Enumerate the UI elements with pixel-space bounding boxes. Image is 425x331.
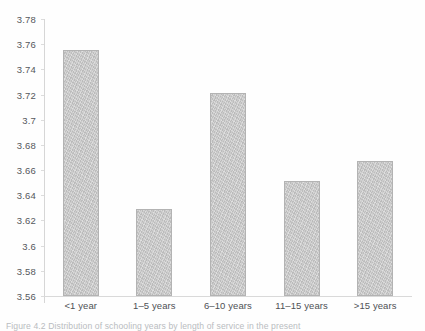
bar — [210, 93, 246, 296]
bar — [63, 50, 99, 296]
y-tick-label: 3.68 — [17, 139, 36, 150]
x-category-label: 6–10 years — [191, 300, 265, 311]
figure-caption: Figure 4.2 Distribution of schooling yea… — [6, 321, 420, 331]
y-tick-mark — [41, 95, 44, 96]
y-tick-mark — [41, 296, 44, 297]
x-category-label: <1 year — [44, 300, 118, 311]
y-tick-mark — [41, 145, 44, 146]
y-tick-mark — [41, 246, 44, 247]
bar — [136, 209, 172, 296]
y-tick-label: 3.7 — [22, 114, 36, 125]
y-tick-mark — [41, 19, 44, 20]
y-tick-mark — [41, 44, 44, 45]
y-tick-label: 3.74 — [17, 64, 36, 75]
y-tick-mark — [41, 120, 44, 121]
y-tick-label: 3.58 — [17, 265, 36, 276]
plot-area: <1 year1–5 years6–10 years11–15 years>15… — [44, 12, 412, 302]
y-axis-tick-labels: 3.783.763.743.723.73.683.663.643.623.63.… — [0, 12, 36, 302]
bar — [284, 181, 320, 296]
y-tick-label: 3.66 — [17, 165, 36, 176]
y-tick-label: 3.64 — [17, 190, 36, 201]
x-category-label: >15 years — [338, 300, 412, 311]
bar — [357, 161, 393, 296]
y-tick-mark — [41, 170, 44, 171]
y-tick-mark — [41, 220, 44, 221]
y-tick-label: 3.62 — [17, 215, 36, 226]
y-tick-label: 3.72 — [17, 89, 36, 100]
y-tick-mark — [41, 195, 44, 196]
x-category-label: 1–5 years — [118, 300, 192, 311]
y-tick-mark — [41, 271, 44, 272]
x-category-label: 11–15 years — [265, 300, 339, 311]
y-tick-label: 3.6 — [22, 240, 36, 251]
y-tick-label: 3.78 — [17, 14, 36, 25]
y-axis-line — [44, 19, 45, 303]
y-tick-mark — [41, 69, 44, 70]
y-tick-label: 3.56 — [17, 291, 36, 302]
x-axis-line — [44, 296, 412, 297]
y-tick-label: 3.76 — [17, 39, 36, 50]
figure-container: 3.783.763.743.723.73.683.663.643.623.63.… — [0, 0, 425, 331]
